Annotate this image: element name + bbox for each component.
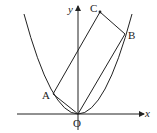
x-axis-label: x	[145, 108, 150, 119]
label-c: C	[90, 3, 97, 14]
point-c	[99, 11, 102, 14]
diagram-canvas	[0, 0, 157, 133]
y-axis-label: y	[68, 4, 73, 15]
label-o: O	[73, 118, 81, 129]
label-a: A	[42, 90, 50, 101]
label-b: B	[128, 30, 135, 41]
rectangle-oacb	[53, 12, 125, 114]
